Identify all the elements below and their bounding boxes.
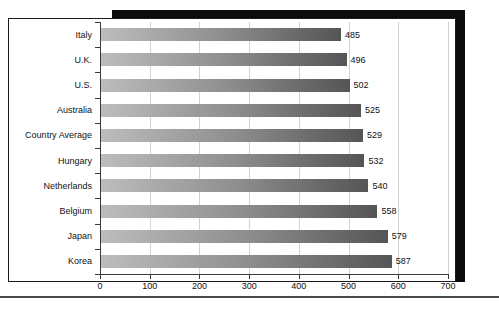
x-axis-label-300: 300 (242, 281, 257, 291)
y-axis-tick (95, 224, 100, 225)
y-axis-label-italy: Italy (75, 30, 92, 40)
bar (100, 179, 368, 192)
bar-row: 485 (100, 28, 448, 41)
y-axis-tick (95, 123, 100, 124)
x-axis-label-400: 400 (291, 281, 306, 291)
y-axis-line (100, 22, 101, 274)
x-axis-tick-700 (448, 274, 449, 279)
bar (100, 104, 361, 117)
y-axis-tick (95, 22, 100, 23)
x-axis-tick-300 (249, 274, 250, 279)
bar (100, 79, 350, 92)
x-axis-tick-500 (349, 274, 350, 279)
y-axis-label-belgium: Belgium (59, 206, 92, 216)
y-axis-label-australia: Australia (57, 105, 92, 115)
y-axis-label-korea: Korea (68, 256, 92, 266)
bar (100, 28, 341, 41)
bar (100, 230, 388, 243)
bar-row: 502 (100, 79, 448, 92)
bar-row: 558 (100, 205, 448, 218)
x-axis-tick-100 (150, 274, 151, 279)
bar-value-label: 525 (361, 105, 380, 115)
x-axis-label-500: 500 (341, 281, 356, 291)
bar-chart-figure: 485496502525529532540558579587 ItalyU.K.… (0, 0, 499, 309)
bar-value-label: 540 (368, 181, 387, 191)
bar-value-label: 485 (341, 30, 360, 40)
bar-row: 496 (100, 53, 448, 66)
bar (100, 255, 392, 268)
bar-value-label: 496 (347, 55, 366, 65)
x-axis-tick-200 (199, 274, 200, 279)
y-axis-ticks (95, 22, 100, 274)
x-axis-label-100: 100 (142, 281, 157, 291)
x-axis-label-600: 600 (391, 281, 406, 291)
x-axis-ticks (100, 274, 448, 279)
bar-series: 485496502525529532540558579587 (100, 22, 448, 274)
x-axis-label-700: 700 (440, 281, 455, 291)
y-axis-label-country-average: Country Average (25, 130, 92, 140)
y-axis-tick (95, 249, 100, 250)
y-axis-tick-labels: ItalyU.K.U.S.AustraliaCountry AverageHun… (8, 22, 92, 274)
bar-row: 525 (100, 104, 448, 117)
bar-value-label: 587 (392, 256, 411, 266)
bar-row: 587 (100, 255, 448, 268)
x-axis-tick-labels: 0100200300400500600700 (100, 281, 448, 295)
y-axis-tick (95, 148, 100, 149)
bar (100, 154, 364, 167)
y-axis-label-u-k: U.K. (74, 55, 92, 65)
bar (100, 205, 377, 218)
x-axis-label-200: 200 (192, 281, 207, 291)
bar-row: 529 (100, 129, 448, 142)
bar-value-label: 579 (388, 231, 407, 241)
y-axis-tick (95, 198, 100, 199)
x-axis-tick-0 (100, 274, 101, 279)
bar (100, 129, 363, 142)
bar-value-label: 558 (377, 206, 396, 216)
bar-row: 532 (100, 154, 448, 167)
y-axis-tick (95, 72, 100, 73)
gridline-700 (448, 22, 449, 274)
bar-value-label: 529 (363, 130, 382, 140)
y-axis-label-japan: Japan (67, 231, 92, 241)
bar-row: 540 (100, 179, 448, 192)
y-axis-label-u-s: U.S. (74, 80, 92, 90)
y-axis-tick (95, 173, 100, 174)
plot-area: 485496502525529532540558579587 (100, 22, 448, 274)
bar-value-label: 532 (364, 156, 383, 166)
y-axis-label-hungary: Hungary (58, 156, 92, 166)
x-axis-tick-600 (398, 274, 399, 279)
bar (100, 53, 347, 66)
bar-row: 579 (100, 230, 448, 243)
page-rule (0, 296, 499, 298)
x-axis-label-0: 0 (97, 281, 102, 291)
y-axis-tick (95, 98, 100, 99)
bar-value-label: 502 (350, 80, 369, 90)
y-axis-label-netherlands: Netherlands (43, 181, 92, 191)
x-axis-tick-400 (299, 274, 300, 279)
y-axis-tick (95, 47, 100, 48)
